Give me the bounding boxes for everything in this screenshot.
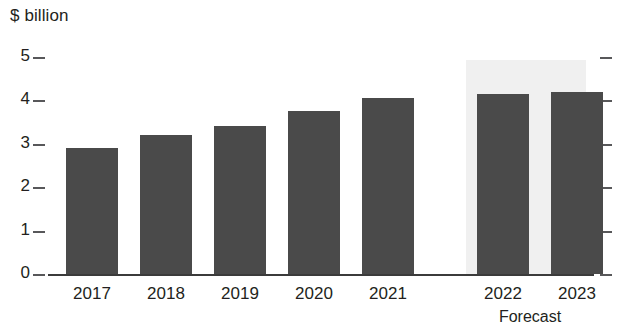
x-label-2022: 2022: [471, 284, 535, 304]
y-tick-right-5: [600, 57, 612, 59]
bar-2017[interactable]: [66, 148, 118, 274]
x-label-2021: 2021: [356, 284, 420, 304]
y-tick-label-2: 2: [4, 176, 30, 196]
x-label-2017: 2017: [60, 284, 124, 304]
y-tick-label-5: 5: [4, 46, 30, 66]
y-tick-label-1: 1: [4, 220, 30, 240]
y-tick-right-0: [600, 274, 612, 276]
plot-area: 5 4 3 2 1 0: [0, 0, 632, 334]
bar-2018[interactable]: [140, 135, 192, 274]
bar-2023[interactable]: [551, 92, 603, 274]
y-tick-4: [33, 100, 45, 102]
y-tick-0: [33, 274, 45, 276]
x-axis-baseline: [48, 274, 594, 276]
y-tick-label-0: 0: [4, 263, 30, 283]
y-tick-label-4: 4: [4, 89, 30, 109]
bar-2021[interactable]: [362, 98, 414, 274]
x-label-2020: 2020: [282, 284, 346, 304]
x-label-2018: 2018: [134, 284, 198, 304]
bar-2020[interactable]: [288, 111, 340, 274]
forecast-caption: Forecast: [470, 308, 590, 326]
y-tick-3: [33, 144, 45, 146]
x-label-2023: 2023: [545, 284, 609, 304]
y-tick-2: [33, 187, 45, 189]
bar-chart: $ billion 5 4 3: [0, 0, 632, 334]
x-label-2019: 2019: [208, 284, 272, 304]
bar-2019[interactable]: [214, 126, 266, 274]
y-tick-1: [33, 231, 45, 233]
bar-2022[interactable]: [477, 94, 529, 274]
y-tick-5: [33, 57, 45, 59]
y-tick-label-3: 3: [4, 133, 30, 153]
